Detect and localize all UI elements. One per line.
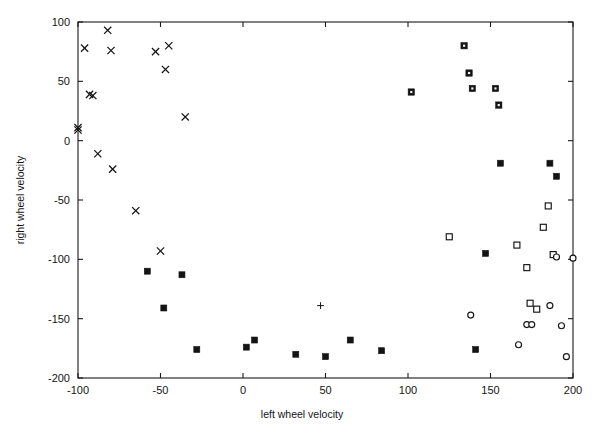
marker-open-square [534,306,540,312]
marker-square-dot [496,102,502,108]
series-cross-markers [74,27,188,255]
x-axis-tick-labels: -100-50050100150200 [67,384,582,396]
marker-filled-square [243,344,249,350]
y-tick-label: 0 [64,135,70,147]
marker-filled-square [323,354,329,360]
marker-open-circle [558,323,564,329]
x-tick-label: -50 [153,384,169,396]
marker-x [81,45,88,52]
plot-frame [78,22,573,378]
marker-filled-square [194,347,200,353]
marker-filled-square [161,305,167,311]
marker-x [104,27,111,34]
marker-filled-square [554,173,560,179]
marker-filled-square [547,160,553,166]
marker-open-circle [468,312,474,318]
marker-open-circle [547,303,553,309]
x-tick-label: 0 [240,384,246,396]
series-filled-square-markers [144,160,559,359]
marker-filled-square [473,347,479,353]
marker-open-circle [529,322,535,328]
marker-filled-square [483,250,489,256]
marker-x [182,113,189,120]
marker-open-square [446,234,452,240]
series-plus-marker [317,302,324,309]
axis-frame [78,22,573,378]
y-axis-ticks [78,22,573,378]
y-tick-label: -100 [48,253,70,265]
marker-open-square [540,224,546,230]
marker-filled-square [179,272,185,278]
marker-x [107,47,114,54]
marker-open-circle [570,255,576,261]
x-tick-label: -100 [67,384,89,396]
plot-canvas: -100-50050100150200 -200-150-100-5005010… [0,0,604,432]
marker-square-dot [469,85,475,91]
series-asterisk-markers [408,43,502,109]
y-axis-tick-labels: -200-150-100-50050100 [48,16,70,384]
series-open-circle-markers [468,254,576,360]
marker-open-circle [516,342,522,348]
y-tick-label: -150 [48,313,70,325]
marker-x [94,150,101,157]
marker-square-dot [466,70,472,76]
marker-open-circle [563,354,569,360]
x-axis-ticks [78,22,573,378]
x-tick-label: 50 [319,384,331,396]
y-tick-label: 50 [58,75,70,87]
marker-filled-square [379,348,385,354]
marker-open-square [524,265,530,271]
marker-open-square [527,300,533,306]
y-tick-label: -200 [48,372,70,384]
scatter-plot-figure: -100-50050100150200 -200-150-100-5005010… [0,0,604,432]
marker-x [162,66,169,73]
marker-open-square [514,242,520,248]
marker-square-dot [492,85,498,91]
marker-square-dot [408,89,414,95]
marker-square-dot [461,43,467,49]
x-axis-label: left wheel velocity [261,408,344,420]
marker-filled-square [497,160,503,166]
marker-x [157,247,164,254]
marker-open-square [545,203,551,209]
marker-plus [317,302,324,309]
y-tick-label: -50 [54,194,70,206]
y-tick-label: 100 [52,16,70,28]
marker-x [152,48,159,55]
marker-x [132,207,139,214]
y-axis-label: right wheel velocity [14,155,26,244]
x-tick-label: 200 [564,384,582,396]
marker-x [109,166,116,173]
marker-open-circle [554,254,560,260]
marker-filled-square [347,337,353,343]
x-tick-label: 150 [481,384,499,396]
marker-x [165,42,172,49]
x-tick-label: 100 [399,384,417,396]
series-open-square-markers [446,203,556,312]
marker-filled-square [144,268,150,274]
marker-filled-square [293,351,299,357]
data-markers [74,27,576,360]
marker-filled-square [252,337,258,343]
